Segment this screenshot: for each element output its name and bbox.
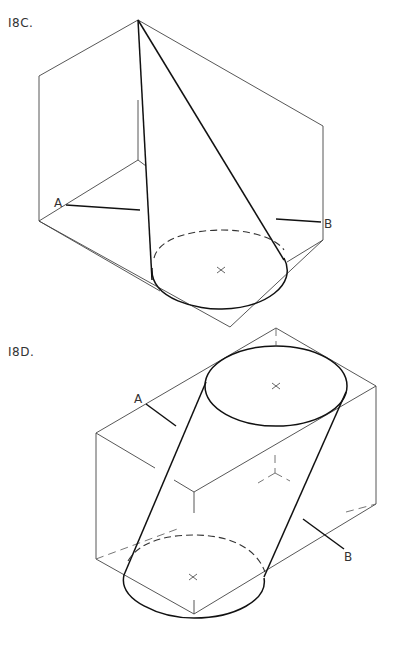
cone-base-hidden — [154, 230, 284, 258]
box-front-top-right — [194, 386, 376, 492]
cone-base-front — [152, 258, 287, 309]
box-front-top-mid — [174, 480, 194, 492]
point-a-18d: A — [134, 392, 143, 406]
box-left-bottom-edge — [39, 221, 160, 291]
box-outline-18c — [39, 20, 323, 327]
box-right-bottom-edge — [287, 240, 323, 262]
box-back-edge — [39, 160, 138, 221]
cutting-line-a-18c — [66, 205, 140, 210]
cylinder-left-side — [124, 382, 206, 575]
cutting-line-a-18d — [146, 404, 176, 426]
point-b-18c: B — [324, 217, 332, 231]
point-b-18d: B — [344, 550, 352, 564]
box-front-top-left — [96, 433, 155, 468]
technical-drawing: A B A B — [0, 0, 398, 660]
cone-left-side — [138, 20, 152, 280]
cone-right-side — [138, 20, 284, 260]
cutting-line-b-18c — [276, 219, 321, 222]
box-back-edge-right — [138, 160, 146, 166]
figure-18d-cylinder: A B — [96, 328, 376, 618]
figure-18c-cone: A B — [39, 20, 332, 327]
point-a-18c: A — [54, 196, 63, 210]
box-outline-18d — [96, 328, 376, 614]
cylinder-bottom-hidden — [128, 535, 265, 572]
cylinder-right-side — [264, 392, 346, 577]
